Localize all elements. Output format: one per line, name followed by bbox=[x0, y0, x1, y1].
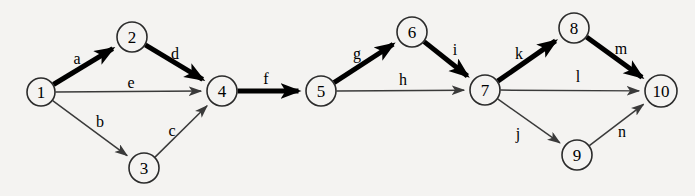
edge-j bbox=[498, 99, 560, 143]
edge-h bbox=[336, 90, 464, 91]
network-diagram: 12345678910 abcdefghijklmn bbox=[0, 0, 695, 196]
node-label-8: 8 bbox=[570, 19, 579, 38]
node-label-9: 9 bbox=[573, 146, 582, 165]
node-label-1: 1 bbox=[37, 83, 46, 102]
node-1[interactable]: 1 bbox=[27, 78, 55, 106]
node-6[interactable]: 6 bbox=[397, 17, 427, 47]
edge-label-m: m bbox=[615, 40, 628, 57]
edge-l bbox=[500, 90, 639, 91]
edge-label-h: h bbox=[399, 71, 407, 88]
node-label-7: 7 bbox=[481, 81, 490, 100]
node-label-5: 5 bbox=[317, 82, 326, 101]
edge-label-j: j bbox=[515, 125, 520, 143]
edge-e bbox=[55, 91, 201, 92]
node-label-3: 3 bbox=[140, 159, 149, 178]
edge-label-b: b bbox=[96, 113, 104, 130]
edge-label-c: c bbox=[168, 122, 175, 139]
node-9[interactable]: 9 bbox=[562, 140, 592, 170]
node-label-6: 6 bbox=[408, 23, 417, 42]
node-label-2: 2 bbox=[128, 28, 137, 47]
node-7[interactable]: 7 bbox=[470, 75, 500, 105]
edge-label-d: d bbox=[171, 45, 179, 62]
edges-layer bbox=[53, 37, 644, 157]
edge-label-l: l bbox=[576, 68, 581, 85]
node-8[interactable]: 8 bbox=[559, 13, 589, 43]
edge-label-e: e bbox=[127, 74, 134, 91]
edge-label-f: f bbox=[263, 70, 269, 87]
edge-label-k: k bbox=[515, 45, 523, 62]
edge-label-g: g bbox=[353, 45, 361, 63]
edge-c bbox=[155, 106, 207, 157]
edge-k bbox=[498, 41, 556, 81]
node-4[interactable]: 4 bbox=[207, 76, 237, 106]
nodes-layer: 12345678910 bbox=[27, 13, 677, 183]
network-diagram-canvas: 12345678910 abcdefghijklmn bbox=[0, 0, 695, 196]
node-3[interactable]: 3 bbox=[129, 153, 159, 183]
edge-label-n: n bbox=[618, 123, 626, 140]
node-2[interactable]: 2 bbox=[117, 22, 147, 52]
edge-b bbox=[53, 101, 127, 156]
edge-i bbox=[424, 42, 467, 76]
edge-label-a: a bbox=[73, 50, 80, 67]
node-label-10: 10 bbox=[653, 82, 670, 101]
edge-label-i: i bbox=[453, 41, 458, 58]
node-10[interactable]: 10 bbox=[645, 75, 677, 107]
edge-a bbox=[53, 49, 112, 85]
node-label-4: 4 bbox=[218, 82, 227, 101]
edge-g bbox=[334, 44, 393, 82]
edge-n bbox=[589, 104, 643, 145]
node-5[interactable]: 5 bbox=[306, 76, 336, 106]
